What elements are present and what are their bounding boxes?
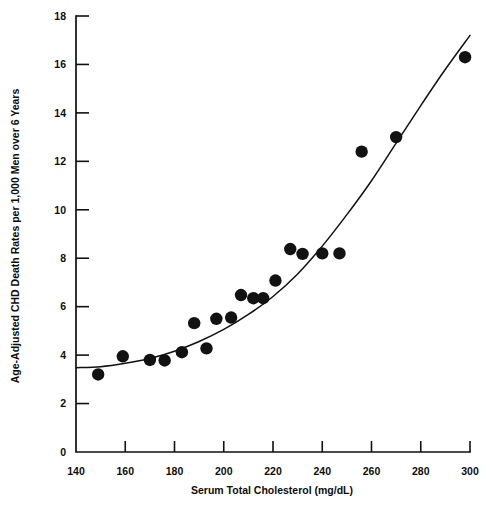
x-tick-label: 240 bbox=[313, 465, 331, 477]
x-tick-label: 280 bbox=[412, 465, 430, 477]
data-point bbox=[296, 248, 308, 260]
x-tick-label: 180 bbox=[166, 465, 184, 477]
data-point bbox=[390, 131, 402, 143]
data-point bbox=[158, 354, 170, 366]
data-point bbox=[333, 247, 345, 259]
x-tick-label: 160 bbox=[116, 465, 134, 477]
data-point bbox=[210, 313, 222, 325]
data-point bbox=[225, 311, 237, 323]
y-tick-label: 6 bbox=[60, 300, 66, 312]
scatter-plot-svg: 024681012141618 140160180200220240260280… bbox=[0, 0, 489, 521]
data-point bbox=[117, 350, 129, 362]
data-point bbox=[316, 247, 328, 259]
y-axis-title: Age-Adjusted CHD Death Rates per 1,000 M… bbox=[9, 89, 21, 384]
data-point bbox=[355, 145, 367, 157]
y-tick-label: 16 bbox=[54, 58, 66, 70]
x-tick-label: 260 bbox=[363, 465, 381, 477]
x-axis-title: Serum Total Cholesterol (mg/dL) bbox=[191, 484, 353, 496]
x-axis-tick-labels: 140160180200220240260280300 bbox=[67, 465, 479, 477]
y-tick-label: 8 bbox=[60, 252, 66, 264]
data-point bbox=[200, 342, 212, 354]
y-tick-label: 10 bbox=[54, 204, 66, 216]
x-tick-label: 300 bbox=[461, 465, 479, 477]
data-point bbox=[144, 354, 156, 366]
x-tick-label: 140 bbox=[67, 465, 85, 477]
plot-background bbox=[0, 0, 489, 521]
data-point bbox=[269, 274, 281, 286]
data-point bbox=[176, 346, 188, 358]
data-point bbox=[257, 292, 269, 304]
data-point bbox=[188, 317, 200, 329]
y-tick-label: 4 bbox=[60, 349, 66, 361]
y-tick-label: 18 bbox=[54, 10, 66, 22]
y-tick-label: 12 bbox=[54, 155, 66, 167]
data-point bbox=[235, 289, 247, 301]
data-point bbox=[284, 243, 296, 255]
x-tick-label: 220 bbox=[264, 465, 282, 477]
y-tick-label: 14 bbox=[54, 107, 66, 119]
data-point bbox=[92, 368, 104, 380]
x-tick-label: 200 bbox=[215, 465, 233, 477]
y-tick-label: 2 bbox=[60, 397, 66, 409]
y-tick-label: 0 bbox=[60, 446, 66, 458]
chart-figure: 024681012141618 140160180200220240260280… bbox=[0, 0, 489, 521]
data-point bbox=[459, 51, 471, 63]
